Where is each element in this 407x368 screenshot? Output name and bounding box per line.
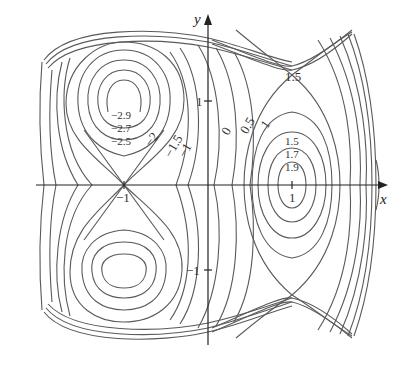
contours-middle bbox=[198, 45, 253, 328]
contour-label: 1.5 bbox=[285, 135, 299, 147]
contour-label: −2 bbox=[141, 129, 161, 149]
contours-right-saddle bbox=[212, 30, 352, 338]
contour-label: 1 bbox=[257, 117, 273, 131]
y-tick-neg1: −1 bbox=[186, 263, 200, 278]
y-tick-1: 1 bbox=[196, 94, 203, 109]
x-axis-arrow-icon bbox=[378, 181, 388, 189]
x-tick-1: 1 bbox=[289, 190, 296, 205]
contour-label: 1.9 bbox=[285, 161, 299, 173]
contour-label: −2.7 bbox=[111, 122, 131, 134]
y-axis-label: y bbox=[192, 11, 201, 27]
contour-label: 1.7 bbox=[285, 148, 299, 160]
contour-label: −2.9 bbox=[111, 109, 131, 121]
far-left-contours bbox=[40, 62, 56, 310]
contour-label: −2.5 bbox=[111, 135, 131, 147]
x-tick-neg1: −1 bbox=[116, 190, 130, 205]
contours-lower-min bbox=[70, 185, 182, 322]
contour-plot: y x −1 1 1 −1 −2.9 −2.7 −2.5 −2 −1.5 −1 … bbox=[0, 0, 407, 368]
contour-label: 0 bbox=[218, 124, 234, 137]
contour-label: 1.5 bbox=[285, 69, 301, 84]
contour-label: 0.5 bbox=[237, 115, 258, 137]
y-axis-arrow-icon bbox=[204, 14, 212, 25]
x-axis-label: x bbox=[379, 191, 387, 207]
